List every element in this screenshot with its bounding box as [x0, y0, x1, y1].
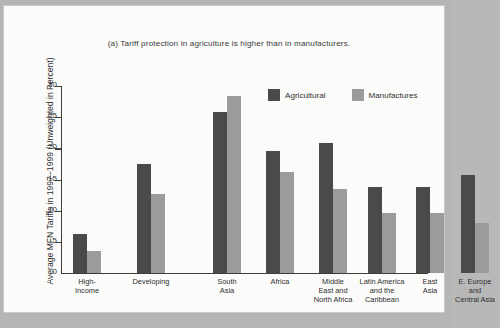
bar-manufactures[interactable] — [280, 172, 294, 273]
y-axis-tick-label: 5 — [53, 236, 57, 245]
plot-area: 051015202530 High- IncomeDevelopingSouth… — [61, 86, 428, 273]
bar-group — [266, 86, 294, 273]
bar-agricultural[interactable] — [73, 234, 87, 273]
bar-manufactures[interactable] — [382, 213, 396, 273]
y-axis-tick-label: 20 — [48, 142, 57, 151]
bar-manufactures[interactable] — [227, 96, 241, 273]
bar-agricultural[interactable] — [461, 175, 475, 273]
x-axis-line — [61, 273, 428, 274]
bar-agricultural[interactable] — [266, 151, 280, 273]
bar-manufactures[interactable] — [87, 251, 101, 273]
bar-group — [461, 86, 489, 273]
y-axis-tick-label: 30 — [48, 80, 57, 89]
chart-title: (a) Tariff protection in agriculture is … — [34, 39, 424, 48]
bar-agricultural[interactable] — [368, 187, 382, 273]
bar-group — [319, 86, 347, 273]
bar-manufactures[interactable] — [333, 189, 347, 273]
bar-manufactures[interactable] — [475, 223, 489, 273]
x-axis-category-label: High- Income — [64, 278, 110, 296]
x-axis-category-label: Developing — [120, 278, 182, 287]
x-axis-category-label: Latin America and the Caribbean — [350, 278, 414, 304]
bar-group — [368, 86, 396, 273]
y-axis-tick-label: 15 — [48, 174, 57, 183]
bar-group — [416, 86, 444, 273]
document-page: (a) Tariff protection in agriculture is … — [4, 6, 444, 312]
bar-group — [213, 86, 241, 273]
bar-agricultural[interactable] — [137, 164, 151, 273]
x-axis-category-label: E. Europe and Central Asia — [446, 278, 500, 304]
x-axis-category-label: South Asia — [204, 278, 250, 296]
bar-agricultural[interactable] — [213, 112, 227, 273]
y-axis-tick-label: 10 — [48, 205, 57, 214]
bar-group — [73, 86, 101, 273]
bar-manufactures[interactable] — [430, 213, 444, 273]
y-axis-tick-label: 0 — [53, 267, 57, 276]
bar-agricultural[interactable] — [416, 187, 430, 273]
x-axis-category-label: East Asia — [410, 278, 450, 296]
bar-manufactures[interactable] — [151, 194, 165, 273]
y-axis-tick-label: 25 — [48, 111, 57, 120]
bar-group — [137, 86, 165, 273]
x-axis-category-label: Africa — [258, 278, 302, 287]
bar-agricultural[interactable] — [319, 143, 333, 273]
